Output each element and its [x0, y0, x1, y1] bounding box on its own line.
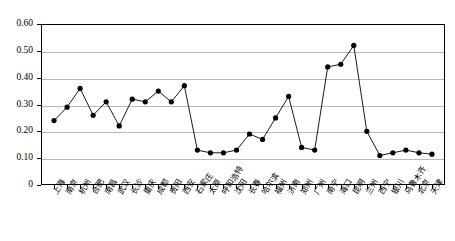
x-tick-label: 兰州: [365, 178, 380, 196]
x-tick-label: 杭州: [78, 178, 93, 196]
x-tick-label: 南京: [65, 178, 80, 196]
x-tick-label: 海口: [339, 178, 354, 196]
x-tick-label: 南宁: [326, 178, 341, 196]
x-tick-label: 昆明: [352, 178, 367, 196]
x-tick-label: 广州: [313, 178, 328, 196]
x-axis: 上海南京杭州合肥南昌武汉长沙重庆成都贵阳西安石家庄太原呼和浩特沈阳长春哈尔滨福州…: [0, 0, 455, 241]
x-tick-label: 西宁: [378, 178, 393, 196]
x-tick-label: 郑州: [300, 178, 315, 196]
x-tick-label: 银川: [391, 178, 406, 196]
chart-figure: 0.600.500.400.300.200.100 上海南京杭州合肥南昌武汉长沙…: [0, 0, 455, 241]
x-tick-label: 合肥: [91, 178, 106, 196]
x-tick-label: 上海: [52, 178, 67, 196]
x-tick-label: 天津: [430, 178, 445, 196]
x-tick-label: 长春: [248, 178, 263, 196]
x-tick-label: 济南: [287, 178, 302, 196]
